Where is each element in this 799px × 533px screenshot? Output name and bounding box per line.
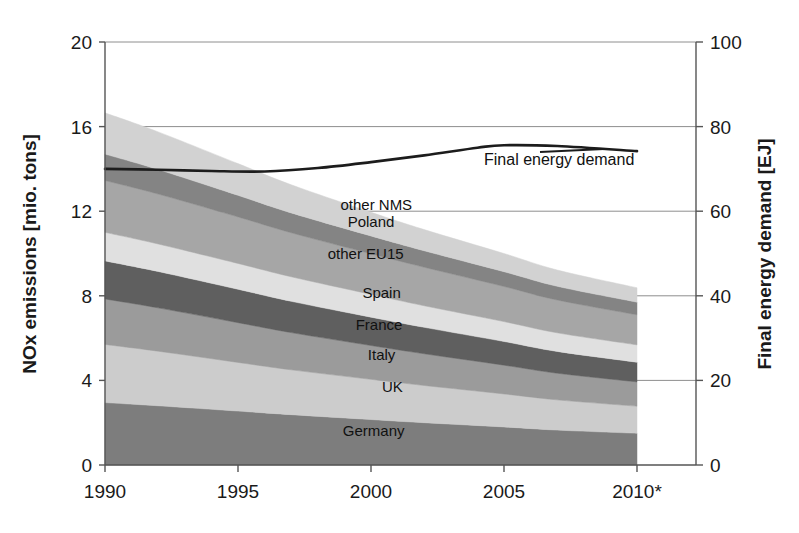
band-label-other-eu15: other EU15 [328, 245, 404, 262]
x-tick-label-2005: 2005 [483, 481, 525, 502]
nox-emissions-chart: 048121620 020406080100 19901995200020052… [0, 0, 799, 533]
x-tick-label-2010: 2010* [612, 481, 662, 502]
band-label-italy: Italy [368, 346, 396, 363]
band-label-uk: UK [382, 378, 403, 395]
right-tick-label-0: 0 [710, 455, 721, 476]
band-label-germany: Germany [343, 422, 405, 439]
left-tick-label-0: 0 [81, 455, 92, 476]
final-energy-demand-label-group: Final energy demand [484, 149, 634, 168]
right-tick-label-20: 20 [710, 370, 731, 391]
x-tick-label-2000: 2000 [350, 481, 392, 502]
left-tick-label-4: 4 [81, 370, 92, 391]
left-tick-label-8: 8 [81, 286, 92, 307]
y2-axis-title: Final energy demand [EJ] [754, 138, 775, 369]
band-label-france: France [356, 316, 403, 333]
final-energy-demand-label: Final energy demand [484, 151, 634, 168]
x-tick-label-1995: 1995 [217, 481, 259, 502]
band-label-poland: Poland [348, 213, 395, 230]
band-label-other-nms: other NMS [340, 196, 412, 213]
right-tick-label-60: 60 [710, 201, 731, 222]
right-tick-label-40: 40 [710, 286, 731, 307]
band-label-spain: Spain [362, 284, 400, 301]
left-tick-label-12: 12 [71, 201, 92, 222]
left-tick-label-16: 16 [71, 117, 92, 138]
right-tick-label-100: 100 [710, 32, 742, 53]
x-tick-label-1990: 1990 [84, 481, 126, 502]
y-axis-title: NOx emissions [mio. tons] [19, 134, 40, 374]
left-tick-label-20: 20 [71, 32, 92, 53]
right-tick-label-80: 80 [710, 117, 731, 138]
